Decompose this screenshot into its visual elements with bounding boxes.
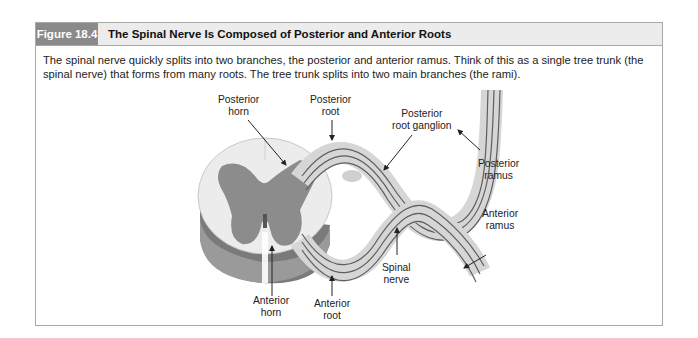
label-posterior-ramus: Posterior ramus: [478, 158, 519, 182]
label-anterior-ramus: Anterior ramus: [482, 208, 518, 232]
label-posterior-root: Posterior root: [310, 94, 351, 118]
spinal-nerve-diagram: [0, 0, 698, 338]
label-anterior-root: Anterior root: [314, 298, 350, 322]
label-spinal-nerve: Spinal nerve: [382, 262, 411, 286]
label-posterior-horn: Posterior horn: [218, 94, 259, 118]
label-posterior-root-ganglion: Posterior root ganglion: [392, 108, 452, 132]
label-anterior-horn: Anterior horn: [253, 295, 289, 319]
